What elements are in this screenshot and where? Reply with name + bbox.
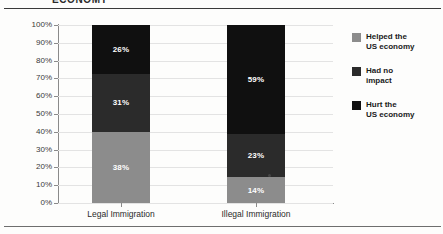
- bar-segment[interactable]: 23%: [227, 134, 285, 177]
- bar-segment[interactable]: 38%: [92, 132, 150, 203]
- legend-item[interactable]: Hurt theUS economy: [352, 100, 440, 120]
- legend-color-swatch: [352, 101, 361, 110]
- bar-segment-value-label: 23%: [248, 151, 265, 160]
- y-axis-tick-label: 80%: [0, 55, 52, 64]
- x-axis-tick: [121, 203, 122, 207]
- legend-label-line1: Had no: [366, 66, 393, 76]
- legend-label-line2: impact: [366, 76, 393, 86]
- legend-label-line2: US economy: [366, 110, 414, 120]
- bar-segment[interactable]: 59%: [227, 25, 285, 134]
- legend-color-swatch: [352, 67, 361, 76]
- legend-item[interactable]: Helped theUS economy: [352, 32, 440, 52]
- y-axis-tick-label: 0%: [0, 198, 52, 207]
- scanned-page: ECONOMY 0%10%20%30%40%50%60%70%80%90%100…: [0, 0, 443, 234]
- bar-illegal-immigration[interactable]: 59%23%14%: [227, 25, 285, 203]
- x-axis-category-label: Illegal Immigration: [222, 209, 291, 219]
- legend-color-swatch: [352, 33, 361, 42]
- bar-segment[interactable]: 26%: [92, 25, 150, 74]
- top-divider-rule: [4, 8, 441, 9]
- plot-area: 26%31%38%59%23%14%: [58, 25, 333, 203]
- bottom-divider-rule: [4, 226, 441, 227]
- stacked-bar-chart: 0%10%20%30%40%50%60%70%80%90%100% 26%31%…: [0, 12, 443, 222]
- gridline: [58, 203, 333, 204]
- y-axis-tick-label: 90%: [0, 37, 52, 46]
- legend-label-line1: Helped the: [366, 32, 414, 42]
- legend-item-label: Helped theUS economy: [366, 32, 414, 52]
- bar-segment-value-label: 38%: [113, 163, 130, 172]
- legend-item[interactable]: Had noimpact: [352, 66, 440, 86]
- bar-segment[interactable]: 31%: [92, 74, 150, 132]
- bar-segment-value-label: 31%: [113, 98, 130, 107]
- y-axis-tick-label: 30%: [0, 144, 52, 153]
- bar-segment-value-label: 59%: [248, 75, 265, 84]
- bar-segment-value-label: 26%: [113, 45, 130, 54]
- y-axis-tick-label: 70%: [0, 73, 52, 82]
- chart-legend: Helped theUS economyHad noimpactHurt the…: [352, 32, 440, 134]
- scan-artifact-speck: [268, 174, 271, 177]
- bar-legal-immigration[interactable]: 26%31%38%: [92, 25, 150, 203]
- y-axis-tick-label: 10%: [0, 180, 52, 189]
- y-axis-tick-label: 100%: [0, 20, 52, 29]
- y-axis-tick-label: 20%: [0, 162, 52, 171]
- x-axis-category-label: Legal Immigration: [87, 209, 155, 219]
- bar-segment-value-label: 14%: [248, 186, 265, 195]
- x-axis-tick: [256, 203, 257, 207]
- legend-label-line1: Hurt the: [366, 100, 414, 110]
- y-axis-tick-label: 40%: [0, 126, 52, 135]
- legend-item-label: Hurt theUS economy: [366, 100, 414, 120]
- bar-segment[interactable]: 14%: [227, 177, 285, 203]
- y-axis-tick-label: 60%: [0, 91, 52, 100]
- y-axis-tick-label: 50%: [0, 109, 52, 118]
- clipped-page-title: ECONOMY: [52, 0, 108, 6]
- y-axis-labels: 0%10%20%30%40%50%60%70%80%90%100%: [0, 24, 52, 204]
- legend-item-label: Had noimpact: [366, 66, 393, 86]
- legend-label-line2: US economy: [366, 42, 414, 52]
